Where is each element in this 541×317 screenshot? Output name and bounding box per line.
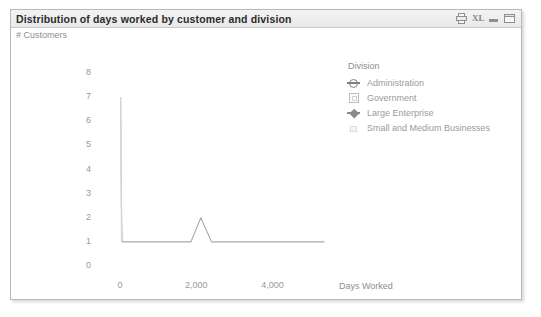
title-bar-buttons: XL [456, 13, 521, 24]
legend-item[interactable]: Government [347, 91, 515, 105]
legend-item-label: Administration [367, 78, 515, 88]
legend-title: Division [347, 61, 515, 71]
diamond-bar-marker [347, 107, 361, 119]
page-title: Distribution of days worked by customer … [11, 13, 456, 25]
legend: Division AdministrationGovernmentLarge E… [347, 61, 515, 136]
minimize-icon-bar [489, 19, 498, 22]
series-line [121, 97, 122, 242]
series-layer [121, 97, 325, 242]
faint-square-marker [347, 122, 361, 134]
plot-body: # Customers Days Worked 01234567802,0004… [11, 29, 521, 299]
marker-square [350, 126, 357, 132]
chart-window[interactable]: Distribution of days worked by customer … [10, 9, 522, 300]
excel-icon[interactable]: XL [472, 13, 483, 24]
legend-item-label: Small and Medium Businesses [367, 123, 515, 133]
legend-item-label: Government [367, 93, 515, 103]
circle-bar-marker [347, 77, 361, 89]
marker-ring [349, 79, 358, 88]
legend-item[interactable]: Small and Medium Businesses [347, 121, 515, 135]
series-line [122, 218, 324, 242]
chart-title-bar[interactable]: Distribution of days worked by customer … [11, 10, 521, 28]
minimize-icon[interactable] [488, 13, 499, 24]
maximize-icon-cap [504, 14, 515, 17]
legend-item-label: Large Enterprise [367, 108, 515, 118]
print-icon[interactable] [456, 13, 467, 24]
maximize-icon[interactable] [504, 13, 515, 24]
legend-rows: AdministrationGovernmentLarge Enterprise… [347, 76, 515, 135]
marker-diamond [349, 108, 358, 117]
legend-item[interactable]: Large Enterprise [347, 106, 515, 120]
legend-item[interactable]: Administration [347, 76, 515, 90]
square-marker [347, 92, 361, 104]
marker-square-inner [352, 96, 357, 101]
print-icon-paper [458, 20, 465, 24]
